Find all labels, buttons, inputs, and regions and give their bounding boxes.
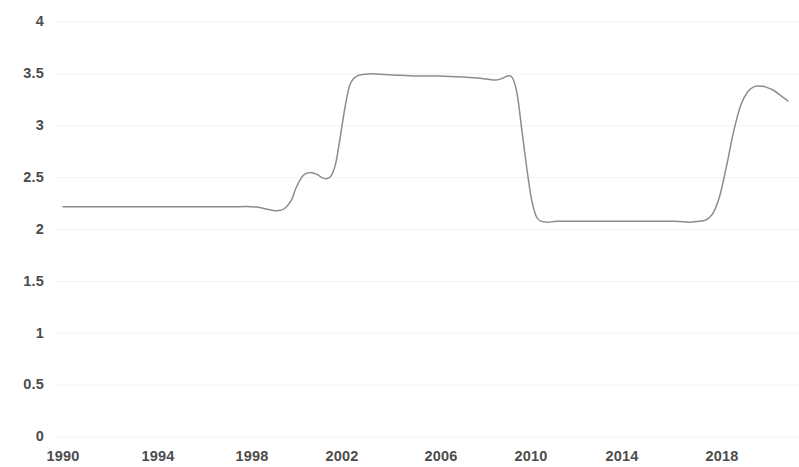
y-tick-label-3-5: 3.5 [0,65,44,81]
series-svg [0,0,799,467]
y-tick-label-0-5: 0.5 [0,376,44,392]
y-tick-label-0: 0 [0,428,44,444]
x-tick-label-2002: 2002 [312,448,372,464]
x-tick-label-2014: 2014 [592,448,652,464]
x-tick-label-2010: 2010 [501,448,561,464]
y-tick-label-1: 1 [0,325,44,341]
y-tick-label-3: 3 [0,117,44,133]
line-chart: 4 3.5 3 2.5 2 1.5 1 0.5 0 1990 1994 1998… [0,0,799,467]
x-tick-label-1998: 1998 [222,448,282,464]
gridlines [55,22,799,437]
x-tick-label-1994: 1994 [128,448,188,464]
x-tick-label-2018: 2018 [692,448,752,464]
y-tick-label-2-5: 2.5 [0,169,44,185]
x-tick-label-1990: 1990 [33,448,93,464]
plot-area: 4 3.5 3 2.5 2 1.5 1 0.5 0 1990 1994 1998… [0,0,799,467]
y-tick-label-2: 2 [0,221,44,237]
y-tick-label-1-5: 1.5 [0,273,44,289]
x-tick-label-2006: 2006 [411,448,471,464]
y-tick-label-4: 4 [0,13,44,29]
series-line-rate [63,74,788,222]
